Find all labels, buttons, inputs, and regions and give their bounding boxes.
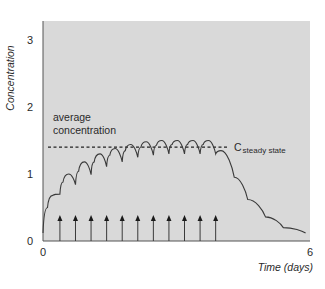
average-concentration-label-line1: average bbox=[53, 111, 91, 123]
y-tick-label: 0 bbox=[27, 235, 33, 247]
average-concentration-label-line2: concentration bbox=[53, 124, 116, 136]
y-tick-label: 1 bbox=[27, 168, 33, 180]
x-tick-label: 6 bbox=[307, 246, 313, 258]
x-axis-label: Time (days) bbox=[258, 261, 313, 273]
x-tick-labels: 06 bbox=[40, 246, 313, 258]
y-tick-labels: 0123 bbox=[27, 34, 33, 247]
x-tick-label: 0 bbox=[40, 246, 46, 258]
y-tick-label: 3 bbox=[27, 34, 33, 46]
y-axis-label: Concentration bbox=[4, 45, 16, 111]
y-tick-label: 2 bbox=[27, 101, 33, 113]
concentration-chart: 0123 06 Concentration Time (days) Cstead… bbox=[0, 0, 325, 289]
